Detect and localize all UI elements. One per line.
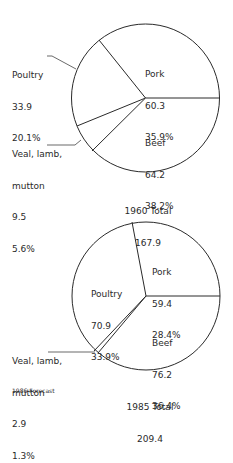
slice-name: Pork <box>145 69 174 80</box>
slice-value: 59.4 <box>152 299 181 310</box>
total-label: 1985 Total <box>112 402 188 413</box>
bottom-total: 1985 Total 209.4 <box>112 381 188 455</box>
total-value: 209.4 <box>112 434 188 445</box>
slice-name: Beef <box>152 338 181 349</box>
slice-value: 64.2 <box>145 170 174 181</box>
slice-name: Beef <box>145 138 174 149</box>
slice-percent: 33.9% <box>91 352 122 363</box>
top-veal-label: Veal, lamb, mutton 9.5 5.6% <box>12 128 62 265</box>
slice-value: 2.9 <box>12 419 62 430</box>
slice-name: Veal, lamb, <box>12 356 62 367</box>
slice-value: 70.9 <box>91 321 122 332</box>
slice-percent: 1.3% <box>12 451 62 462</box>
slice-name-line2: mutton <box>12 181 62 192</box>
slice-name: Poultry <box>91 289 122 300</box>
slice-value: 9.5 <box>12 212 62 223</box>
bottom-poultry-label: Poultry 70.9 33.9% <box>91 268 122 373</box>
slice-percent: 5.6% <box>12 244 62 255</box>
slice-value: 33.9 <box>12 102 43 113</box>
bottom-veal-label: Veal, lamb, mutton 2.9 1.3% <box>12 335 62 463</box>
slice-name: Veal, lamb, <box>12 149 62 160</box>
forecast-note: 1986 Forecast <box>12 386 55 397</box>
total-label: 1960 Total <box>110 206 186 217</box>
slice-value: 60.3 <box>145 101 174 112</box>
slice-name: Poultry <box>12 70 43 81</box>
slice-name: Pork <box>152 267 181 278</box>
slice-value: 76.2 <box>152 370 181 381</box>
